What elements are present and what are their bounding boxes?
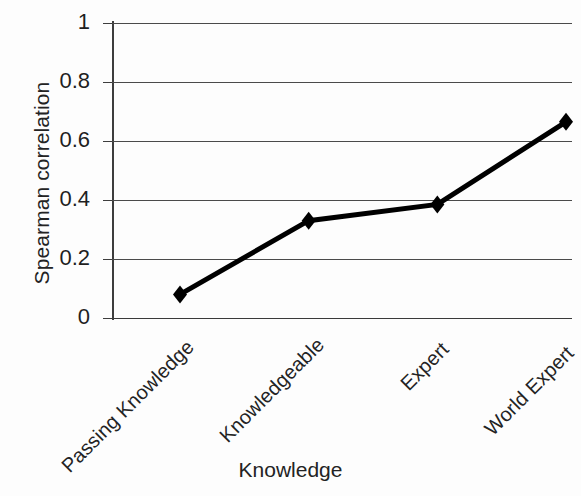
x-category-label: World Expert: [480, 342, 579, 441]
plot-area: [112, 23, 572, 318]
y-tick-label: 0: [0, 304, 98, 330]
gridline-0.8: [112, 82, 572, 83]
gridline-0: [112, 318, 572, 319]
gridline-0.2: [112, 259, 572, 260]
x-category-label: Knowledgeable: [215, 334, 329, 448]
y-tick-label: 1: [0, 9, 98, 35]
y-tick-label: 0.2: [0, 245, 98, 271]
gridline-0.6: [112, 141, 572, 142]
x-axis-title: Knowledge: [0, 458, 581, 482]
y-tick-label: 0.4: [0, 186, 98, 212]
gridline-0.4: [112, 200, 572, 201]
x-category-label: Expert: [396, 338, 454, 396]
y-tick-label: 0.8: [0, 68, 98, 94]
y-tick-label: 0.6: [0, 127, 98, 153]
x-category-label: Passing Knowledge: [57, 336, 199, 478]
chart-figure: Spearman correlation 00.20.40.60.81 Pass…: [0, 0, 581, 496]
gridline-1: [112, 23, 572, 24]
